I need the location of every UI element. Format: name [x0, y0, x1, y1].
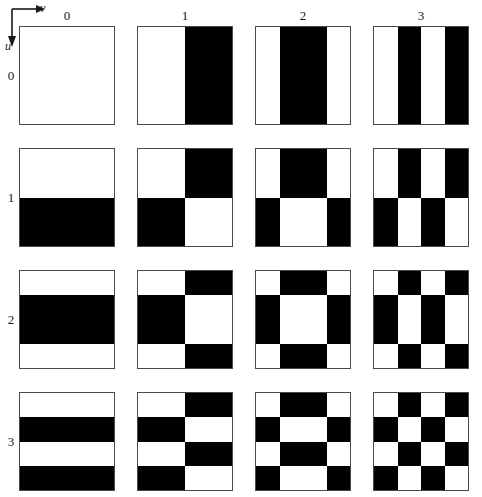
patch-r1-c3 — [445, 417, 469, 441]
basis-tile-u0-v2 — [255, 26, 351, 125]
patch-r1-c1 — [162, 51, 186, 75]
patch-r2-c0 — [374, 76, 398, 100]
patch-r3-c2 — [67, 222, 91, 246]
patch-r1-c0 — [20, 417, 44, 441]
patch-r1-c0 — [256, 51, 280, 75]
patch-r3-c1 — [44, 100, 68, 124]
patch-r2-c0 — [374, 442, 398, 466]
patch-r2-c2 — [303, 442, 327, 466]
patch-r2-c3 — [327, 198, 351, 222]
patch-r3-c2 — [303, 100, 327, 124]
patch-r3-c1 — [280, 222, 304, 246]
patch-r2-c3 — [91, 320, 115, 344]
patch-r0-c3 — [209, 393, 233, 417]
patch-r2-c1 — [398, 198, 422, 222]
basis-tile-u1-v3 — [373, 148, 469, 247]
patch-r3-c2 — [67, 344, 91, 368]
patch-r1-c1 — [162, 173, 186, 197]
patch-r3-c2 — [421, 466, 445, 490]
patch-r1-c0 — [374, 51, 398, 75]
patch-r0-c0 — [138, 271, 162, 295]
patch-r1-c2 — [303, 173, 327, 197]
patch-r3-c0 — [20, 344, 44, 368]
row-header-3: 3 — [4, 435, 18, 448]
patch-r1-c3 — [327, 51, 351, 75]
patch-r0-c2 — [67, 27, 91, 51]
patch-r2-c3 — [91, 442, 115, 466]
patch-r2-c1 — [44, 76, 68, 100]
patch-r0-c0 — [20, 271, 44, 295]
patch-r0-c3 — [91, 271, 115, 295]
basis-tile-u0-v1 — [137, 26, 233, 125]
patch-r0-c1 — [162, 27, 186, 51]
patch-r0-c1 — [398, 27, 422, 51]
patch-r2-c3 — [327, 442, 351, 466]
patch-r1-c0 — [20, 173, 44, 197]
patch-r1-c0 — [20, 295, 44, 319]
patch-r3-c0 — [256, 100, 280, 124]
patch-r0-c2 — [421, 393, 445, 417]
patch-r2-c2 — [303, 198, 327, 222]
patch-r2-c0 — [20, 320, 44, 344]
patch-r3-c1 — [280, 466, 304, 490]
patch-r0-c1 — [280, 149, 304, 173]
patch-r0-c1 — [162, 393, 186, 417]
row-header-0: 0 — [4, 69, 18, 82]
patch-r2-c1 — [398, 320, 422, 344]
patch-r0-c1 — [44, 271, 68, 295]
patch-r2-c1 — [280, 320, 304, 344]
patch-r3-c2 — [67, 466, 91, 490]
basis-tile-u2-v2 — [255, 270, 351, 369]
basis-tile-u3-v0 — [19, 392, 115, 491]
patch-r0-c1 — [280, 271, 304, 295]
patch-r0-c0 — [256, 27, 280, 51]
patch-r0-c3 — [209, 27, 233, 51]
patch-r3-c3 — [327, 100, 351, 124]
patch-r2-c2 — [185, 320, 209, 344]
patch-r1-c2 — [67, 295, 91, 319]
patch-r1-c3 — [209, 295, 233, 319]
patch-r1-c0 — [138, 51, 162, 75]
patch-r2-c0 — [374, 320, 398, 344]
patch-r3-c3 — [209, 100, 233, 124]
patch-r2-c0 — [256, 442, 280, 466]
patch-r1-c3 — [327, 417, 351, 441]
patch-r1-c3 — [327, 173, 351, 197]
patch-r0-c0 — [374, 271, 398, 295]
patch-r1-c3 — [327, 295, 351, 319]
patch-r3-c0 — [374, 100, 398, 124]
patch-r0-c3 — [327, 27, 351, 51]
patch-r2-c1 — [162, 320, 186, 344]
patch-r2-c1 — [44, 320, 68, 344]
patch-r2-c3 — [209, 442, 233, 466]
patch-r3-c1 — [280, 344, 304, 368]
patch-r1-c0 — [256, 173, 280, 197]
patch-r0-c2 — [185, 271, 209, 295]
patch-r0-c3 — [445, 27, 469, 51]
patch-r1-c1 — [44, 173, 68, 197]
patch-r0-c2 — [421, 27, 445, 51]
patch-r0-c2 — [421, 271, 445, 295]
patch-r2-c3 — [445, 76, 469, 100]
patch-r2-c3 — [91, 76, 115, 100]
patch-r3-c3 — [327, 344, 351, 368]
patch-r2-c0 — [374, 198, 398, 222]
patch-r2-c0 — [256, 76, 280, 100]
patch-r1-c3 — [91, 173, 115, 197]
patch-r0-c2 — [185, 27, 209, 51]
patch-r1-c1 — [280, 295, 304, 319]
patch-r3-c2 — [185, 100, 209, 124]
basis-tile-u3-v2 — [255, 392, 351, 491]
patch-r3-c1 — [44, 466, 68, 490]
patch-r1-c2 — [303, 51, 327, 75]
patch-r1-c1 — [280, 173, 304, 197]
patch-r0-c2 — [303, 27, 327, 51]
patch-r3-c3 — [209, 466, 233, 490]
patch-r3-c1 — [162, 466, 186, 490]
patch-r1-c0 — [374, 295, 398, 319]
patch-r2-c0 — [20, 198, 44, 222]
patch-r0-c1 — [162, 149, 186, 173]
patch-r1-c0 — [374, 417, 398, 441]
patch-r3-c3 — [445, 466, 469, 490]
patch-r3-c0 — [374, 222, 398, 246]
